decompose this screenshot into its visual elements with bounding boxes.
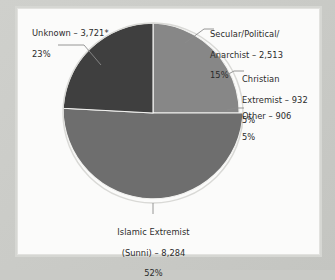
label-islamic-extremist-sunni: Islamic Extremist (Sunni) – 8,284 52% xyxy=(86,217,221,280)
label-secular-line2: Anarchist – 2,513 xyxy=(210,50,283,60)
slice-islamic-extremist-sunni[interactable] xyxy=(63,108,243,199)
label-islamic-line2: (Sunni) – 8,284 xyxy=(122,248,186,258)
chart-panel: Secular/Political/ Anarchist – 2,513 15%… xyxy=(17,8,320,255)
label-christian-line1: Christian xyxy=(242,74,279,84)
label-islamic-percent: 52% xyxy=(86,268,221,278)
label-unknown-line1: Unknown – 3,721* xyxy=(32,28,109,38)
label-secular-line1: Secular/Political/ xyxy=(210,29,279,39)
label-other-percent: 5% xyxy=(242,132,322,142)
label-islamic-line1: Islamic Extremist xyxy=(117,227,189,237)
label-other-line1: Other – 906 xyxy=(242,111,291,121)
label-unknown-percent: 23% xyxy=(32,49,152,59)
label-unknown: Unknown – 3,721* 23% xyxy=(32,18,152,69)
pie-chart: Secular/Political/ Anarchist – 2,513 15%… xyxy=(18,9,319,254)
label-other: Other – 906 5% xyxy=(242,101,322,152)
